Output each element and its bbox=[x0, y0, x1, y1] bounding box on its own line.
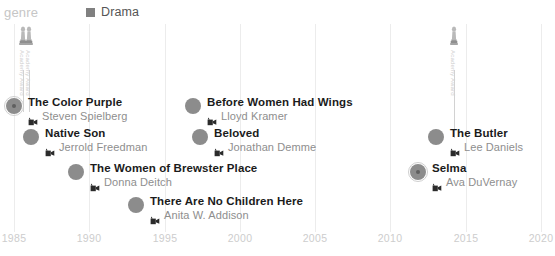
film-text: The Color PurpleSteven Spielberg bbox=[28, 96, 127, 122]
genre-dot-icon bbox=[128, 197, 144, 213]
film-dot[interactable] bbox=[6, 98, 22, 114]
film-dot[interactable] bbox=[185, 98, 201, 114]
film-dot[interactable] bbox=[428, 129, 444, 145]
film-text: Native SonJerrold Freedman bbox=[45, 127, 147, 153]
movie-camera-icon bbox=[432, 178, 442, 187]
gridline bbox=[14, 24, 15, 232]
timeline-chart: genre Drama Academy AwardAcademy AwardAc… bbox=[0, 0, 555, 256]
film-director: Donna Deitch bbox=[104, 176, 172, 188]
film-text: There Are No Children HereAnita W. Addis… bbox=[150, 195, 303, 221]
axis-tick-label: 2010 bbox=[378, 232, 403, 244]
film-director: Ava DuVernay bbox=[446, 176, 517, 188]
movie-camera-icon bbox=[450, 143, 460, 152]
film-title: The Women of Brewster Place bbox=[90, 162, 257, 175]
film-text: The Women of Brewster PlaceDonna Deitch bbox=[90, 162, 257, 188]
film-title: The Color Purple bbox=[28, 96, 127, 109]
film-text: BelovedJonathan Demme bbox=[214, 127, 316, 153]
film-dot[interactable] bbox=[68, 164, 84, 180]
genre-dot-icon bbox=[68, 164, 84, 180]
film-director: Jerrold Freedman bbox=[59, 141, 147, 153]
film-director-row: Ava DuVernay bbox=[432, 176, 517, 188]
award-label: Academy Award bbox=[25, 50, 31, 96]
award-label: Academy Award bbox=[450, 50, 456, 96]
film-entry[interactable]: Before Women Had WingsLloyd Kramer bbox=[185, 98, 353, 122]
axis-tick-label: 2015 bbox=[454, 232, 479, 244]
film-text: The ButlerLee Daniels bbox=[450, 127, 523, 153]
film-director-row: Donna Deitch bbox=[90, 176, 257, 188]
film-dot[interactable] bbox=[192, 129, 208, 145]
film-director: Steven Spielberg bbox=[42, 110, 127, 122]
film-title: Beloved bbox=[214, 127, 316, 140]
film-title: There Are No Children Here bbox=[150, 195, 303, 208]
legend-item-label: Drama bbox=[101, 5, 139, 19]
film-director-row: Lloyd Kramer bbox=[207, 110, 353, 122]
film-director: Lloyd Kramer bbox=[221, 110, 288, 122]
film-dot[interactable] bbox=[128, 197, 144, 213]
award-core-icon bbox=[12, 104, 16, 108]
movie-camera-icon bbox=[150, 211, 160, 220]
genre-dot-icon bbox=[185, 98, 201, 114]
film-title: Native Son bbox=[45, 127, 147, 140]
genre-dot-icon bbox=[428, 129, 444, 145]
film-entry[interactable]: The Color PurpleSteven Spielberg bbox=[6, 98, 127, 122]
gridline bbox=[390, 24, 391, 232]
movie-camera-icon bbox=[214, 143, 224, 152]
axis-tick-label: 1985 bbox=[2, 232, 27, 244]
film-entry[interactable]: The ButlerLee Daniels bbox=[428, 129, 523, 153]
movie-camera-icon bbox=[207, 112, 217, 121]
genre-dot-icon bbox=[192, 129, 208, 145]
film-dot[interactable] bbox=[23, 129, 39, 145]
film-title: Selma bbox=[432, 162, 517, 175]
film-director-row: Lee Daniels bbox=[450, 141, 523, 153]
genre-dot-icon bbox=[23, 129, 39, 145]
film-entry[interactable]: SelmaAva DuVernay bbox=[410, 164, 517, 188]
film-entry[interactable]: There Are No Children HereAnita W. Addis… bbox=[128, 197, 303, 221]
award-core-icon bbox=[416, 170, 420, 174]
film-text: SelmaAva DuVernay bbox=[432, 162, 517, 188]
movie-camera-icon bbox=[45, 143, 55, 152]
film-director-row: Anita W. Addison bbox=[150, 209, 303, 221]
axis-tick-label: 2020 bbox=[529, 232, 554, 244]
film-title: Before Women Had Wings bbox=[207, 96, 353, 109]
film-director: Jonathan Demme bbox=[228, 141, 316, 153]
film-director: Lee Daniels bbox=[464, 141, 523, 153]
film-director-row: Jerrold Freedman bbox=[45, 141, 147, 153]
film-director-row: Steven Spielberg bbox=[28, 110, 127, 122]
plot-area: Academy AwardAcademy AwardAcademy Award … bbox=[0, 24, 555, 232]
film-director: Anita W. Addison bbox=[164, 209, 249, 221]
movie-camera-icon bbox=[28, 112, 38, 121]
x-axis: 19851990199520002005201020152020 bbox=[0, 232, 555, 256]
film-entry[interactable]: Native SonJerrold Freedman bbox=[23, 129, 147, 153]
film-director-row: Jonathan Demme bbox=[214, 141, 316, 153]
axis-tick-label: 2000 bbox=[228, 232, 253, 244]
film-title: The Butler bbox=[450, 127, 523, 140]
movie-camera-icon bbox=[90, 178, 100, 187]
film-text: Before Women Had WingsLloyd Kramer bbox=[207, 96, 353, 122]
oscar-statuette-icon bbox=[23, 26, 35, 48]
axis-tick-label: 2005 bbox=[303, 232, 328, 244]
film-entry[interactable]: The Women of Brewster PlaceDonna Deitch bbox=[68, 164, 257, 188]
film-entry[interactable]: BelovedJonathan Demme bbox=[192, 129, 316, 153]
axis-tick-label: 1995 bbox=[153, 232, 178, 244]
film-dot[interactable] bbox=[410, 164, 426, 180]
legend-title: genre bbox=[4, 5, 86, 20]
chart-legend: genre Drama bbox=[0, 0, 139, 24]
drama-swatch-icon bbox=[86, 8, 95, 17]
legend-item-drama[interactable]: Drama bbox=[86, 5, 139, 19]
oscar-statuette-icon bbox=[448, 26, 460, 48]
axis-tick-label: 1990 bbox=[77, 232, 102, 244]
gridline bbox=[541, 24, 542, 232]
